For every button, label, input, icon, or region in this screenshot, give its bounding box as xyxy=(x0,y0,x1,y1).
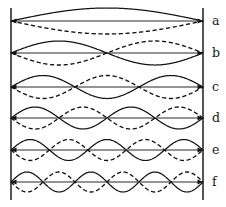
row-label-f: f xyxy=(212,174,218,189)
harmonic-row-f xyxy=(11,172,203,192)
harmonic-row-c xyxy=(11,76,203,99)
right-node-arrow-b xyxy=(198,50,204,55)
harmonic-row-d xyxy=(11,107,203,129)
row-label-e: e xyxy=(212,142,219,157)
left-node-arrow-a xyxy=(11,18,17,23)
row-label-c: c xyxy=(212,79,219,94)
harmonic-row-b xyxy=(11,41,203,65)
wave-dashed-a xyxy=(11,21,203,34)
harmonic-row-a xyxy=(11,8,203,34)
row-label-group: abcdef xyxy=(212,13,220,189)
row-label-b: b xyxy=(212,45,220,60)
harmonics-diagram: abcdef xyxy=(0,0,226,207)
right-node-arrow-a xyxy=(198,18,204,23)
row-label-d: d xyxy=(212,110,220,125)
row-label-a: a xyxy=(212,13,220,28)
boundary-group xyxy=(11,8,203,200)
wave-group xyxy=(11,8,203,192)
harmonic-row-e xyxy=(11,140,203,161)
harmonics-figure: abcdef xyxy=(0,0,226,207)
left-node-arrow-b xyxy=(11,50,17,55)
wave-solid-a xyxy=(11,8,203,21)
